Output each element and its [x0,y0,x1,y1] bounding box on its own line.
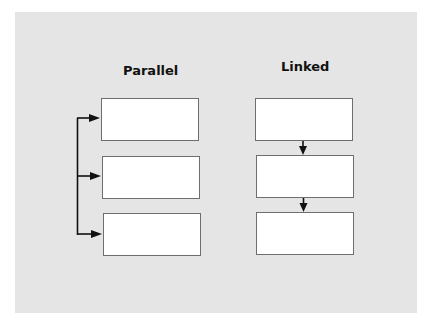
arrow-head-icon [300,203,308,212]
arrow-head-icon [91,230,102,238]
arrow-head-icon [90,172,101,180]
arrow-head-icon [299,146,307,155]
arrow-head-icon [89,114,100,122]
connector-arrows [0,0,429,326]
